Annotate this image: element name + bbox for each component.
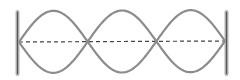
wave-envelope-lower xyxy=(19,41,225,73)
wave-envelope-upper xyxy=(19,10,225,42)
equilibrium-axis xyxy=(19,41,225,42)
standing-wave-diagram xyxy=(0,0,240,80)
